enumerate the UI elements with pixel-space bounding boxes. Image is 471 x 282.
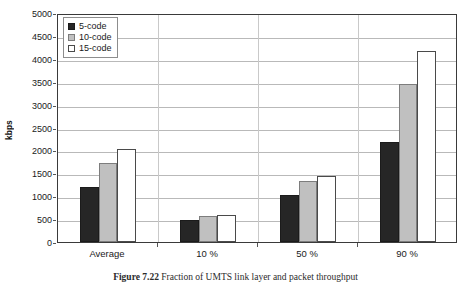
x-axis-tick-mark [357,243,358,247]
y-axis-tick-mark [53,243,56,244]
y-axis-tick-label: 2500 [32,124,52,133]
y-axis-tick-mark [53,151,56,152]
y-axis-tick-labels: 0500100015002000250030003500400045005000 [18,0,56,282]
y-axis-tick-label: 1500 [32,170,52,179]
y-axis-tick-label: 500 [37,216,52,225]
y-axis-tick-label: 0 [47,239,52,248]
y-axis-tick-label: 4000 [32,55,52,64]
y-axis-tick-mark [53,174,56,175]
x-axis-tick-label: 50 % [296,248,318,259]
bar-10-code-90% [399,84,418,242]
y-axis-tick-mark [53,60,56,61]
gridline [58,107,456,108]
y-axis-tick-mark [53,37,56,38]
bar-10-code-Average [99,163,118,242]
y-axis-tick-mark [53,220,56,221]
category-separator [158,15,159,242]
bar-5-code-Average [80,187,99,242]
y-axis-tick-label: 3000 [32,101,52,110]
chart-legend: 5-code10-code15-code [63,17,118,58]
y-axis-tick-label: 3500 [32,78,52,87]
x-axis-tick-mark [157,243,158,247]
bar-15-code-Average [117,149,136,242]
gridline [58,61,456,62]
bar-5-code-50% [280,195,299,242]
y-axis-tick-label: 2000 [32,147,52,156]
bar-15-code-50% [317,176,336,242]
y-axis-tick-mark [53,197,56,198]
category-separator [258,15,259,242]
gridline [58,84,456,85]
y-axis-tick-label: 1000 [32,193,52,202]
legend-item: 10-code [68,32,112,43]
y-axis-title: kbps [2,100,16,160]
x-axis-tick-label: Average [89,248,124,259]
y-axis-tick-mark [53,129,56,130]
legend-swatch-icon [68,34,75,41]
figure-caption-text: Fraction of UMTS link layer and packet t… [161,272,358,282]
y-axis-tick-label: 5000 [32,10,52,19]
gridline [58,130,456,131]
bar-15-code-10% [217,215,236,242]
legend-item-label: 10-code [79,33,112,42]
x-axis-tick-label: 10 % [196,248,218,259]
legend-item-label: 15-code [79,44,112,53]
bar-15-code-90% [417,51,436,242]
figure-caption: Figure 7.22 Fraction of UMTS link layer … [0,272,471,282]
x-axis-tick-labels: Average10 %50 %90 % [57,248,457,264]
bar-5-code-10% [180,220,199,242]
legend-item: 5-code [68,21,112,32]
legend-item: 15-code [68,43,112,54]
bar-10-code-10% [199,216,218,242]
y-axis-tick-mark [53,14,56,15]
bar-10-code-50% [299,181,318,242]
x-axis-tick-mark [257,243,258,247]
y-axis-tick-mark [53,83,56,84]
bar-chart-figure: kbps 05001000150020002500300035004000450… [0,0,471,282]
legend-swatch-icon [68,45,75,52]
legend-item-label: 5-code [79,22,107,31]
y-axis-tick-label: 4500 [32,32,52,41]
bar-5-code-90% [380,142,399,242]
figure-number: Figure 7.22 [113,272,159,282]
x-axis-tick-label: 90 % [396,248,418,259]
y-axis-tick-mark [53,106,56,107]
gridline [58,38,456,39]
category-separator [358,15,359,242]
legend-swatch-icon [68,23,75,30]
